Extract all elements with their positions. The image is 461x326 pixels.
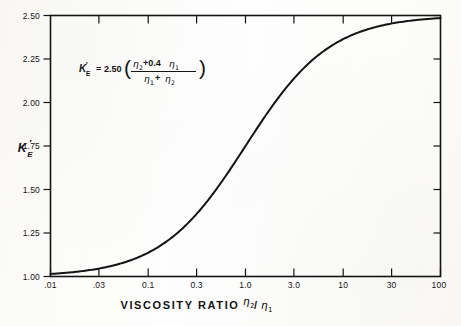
equation-numerator-plus: +0.4 <box>143 58 161 68</box>
x-axis-ticks <box>51 269 441 277</box>
x-axis-title-text: VISCOSITY RATIO <box>121 299 240 311</box>
equation-annotation: K ′ E = 2.50 ( ) η 2 +0.4 η 1 η 1 + η 2 <box>79 56 206 86</box>
y-axis-right-ticks <box>434 16 441 234</box>
y-axis-label-symbol: K <box>18 141 28 155</box>
equation-lhs-prime: ′ <box>86 61 88 68</box>
x-tick-label: .01 <box>44 280 56 290</box>
equation-denominator-plus: + <box>155 73 160 83</box>
equation-denominator-eta1-sub: 1 <box>150 79 154 86</box>
x-tick-labels: .01 .03 0.1 0.3 1.0 3.0 10 30 100 <box>44 280 446 290</box>
equation-equals: = <box>96 64 101 74</box>
x-axis-title: VISCOSITY RATIO η 2 / η 1 <box>121 295 273 314</box>
viscosity-ratio-chart: 1.00 1.25 1.50 1.75 2.00 2.25 2.50 .01 .… <box>0 0 461 326</box>
y-axis-label-subscript: E <box>27 150 33 159</box>
x-tick-label: 100 <box>432 280 447 290</box>
data-curve-ke <box>51 18 441 274</box>
x-tick-label: 3.0 <box>288 280 300 290</box>
x-axis-title-eta-numerator: η <box>243 295 250 307</box>
x-tick-label: 30 <box>387 280 397 290</box>
equation-coefficient: 2.50 <box>104 64 122 74</box>
x-axis-top-ticks <box>99 16 392 24</box>
x-tick-label: 10 <box>338 280 348 290</box>
equation-numerator-eta1-sub: 1 <box>175 64 179 71</box>
y-axis-ticks <box>44 16 51 277</box>
y-tick-label: 1.00 <box>23 272 40 282</box>
equation-lhs-subscript: E <box>86 70 91 77</box>
x-axis-title-slash: / <box>254 299 257 311</box>
x-axis-title-eta-denominator-sub: 1 <box>268 306 272 314</box>
equation-paren-close: ) <box>199 56 206 79</box>
y-tick-label: 1.50 <box>23 185 40 195</box>
y-tick-label: 2.25 <box>23 54 40 64</box>
x-tick-label: 0.3 <box>190 280 202 290</box>
equation-paren-open: ( <box>124 56 131 79</box>
y-tick-label: 1.25 <box>23 228 40 238</box>
equation-denominator-eta2-sub: 2 <box>171 79 175 86</box>
x-axis-title-eta-denominator: η <box>261 299 268 311</box>
x-tick-label: 1.0 <box>239 280 251 290</box>
y-tick-label: 2.00 <box>23 98 40 108</box>
x-tick-label: 0.1 <box>142 280 154 290</box>
y-tick-label: 2.50 <box>23 11 40 21</box>
figure-page: 1.00 1.25 1.50 1.75 2.00 2.25 2.50 .01 .… <box>0 0 461 326</box>
x-tick-label: .03 <box>93 280 105 290</box>
